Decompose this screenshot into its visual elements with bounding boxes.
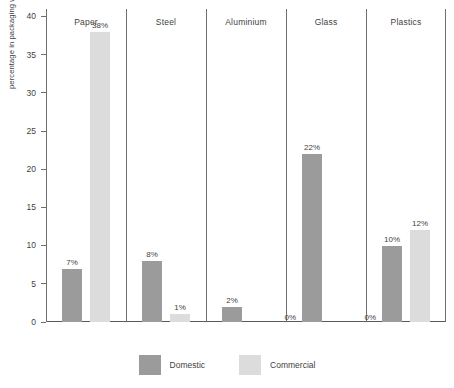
legend-label-domestic: Domestic — [170, 360, 205, 370]
legend-swatch-commercial — [239, 355, 261, 375]
bar-plastics-commercial: 12% — [410, 230, 430, 322]
bar-aluminium-domestic: 2% — [222, 307, 242, 322]
y-tick-label-25: 25 — [27, 126, 36, 135]
bar-label-glass-domestic: 22% — [304, 144, 320, 152]
bar-paper-commercial: 38% — [90, 32, 110, 322]
bar-steel-domestic: 8% — [142, 261, 162, 322]
y-axis-label-wrapper: percentage in packaging waste stream — [8, 9, 22, 322]
legend-swatch-domestic — [139, 355, 161, 375]
bar-label-paper-domestic: 7% — [66, 259, 78, 267]
panel-divider-1 — [126, 9, 127, 322]
y-tick-label-30: 30 — [27, 88, 36, 97]
legend-label-commercial: Commercial — [270, 360, 315, 370]
bar-label-steel-commercial: 1% — [174, 304, 186, 312]
y-tick-label-15: 15 — [27, 203, 36, 212]
bar-steel-commercial: 1% — [170, 314, 190, 322]
bar-label-plastics-commercial: 12% — [412, 220, 428, 228]
bar-glass-domestic: 22% — [302, 154, 322, 322]
y-tick-label-0: 0 — [31, 317, 36, 326]
panel-divider-5 — [445, 9, 446, 322]
bar-label-steel-domestic: 8% — [146, 251, 158, 259]
panel-divider-2 — [206, 9, 207, 322]
bar-label-glass-commercial: 0% — [364, 314, 376, 322]
bar-label-aluminium-domestic: 2% — [226, 297, 238, 305]
panel-divider-3 — [286, 9, 287, 322]
y-axis: percentage in packaging waste stream 403… — [0, 9, 46, 322]
legend-item-domestic[interactable]: Domestic — [139, 355, 205, 375]
y-tick-label-20: 20 — [27, 165, 36, 174]
panel-divider-4 — [366, 9, 367, 322]
bar-label-plastics-domestic: 10% — [384, 236, 400, 244]
chart-legend: DomesticCommercial — [0, 352, 454, 378]
bar-label-paper-commercial: 38% — [92, 22, 108, 30]
legend-item-commercial[interactable]: Commercial — [239, 355, 315, 375]
y-axis-label: percentage in packaging waste stream — [7, 0, 16, 89]
y-tick-label-5: 5 — [31, 279, 36, 288]
y-tick-label-40: 40 — [27, 12, 36, 21]
bar-chart: PaperSteelAluminiumGlassPlastics percent… — [0, 0, 454, 388]
panel-divider-0 — [46, 9, 47, 322]
bar-label-aluminium-commercial: 0% — [284, 314, 296, 322]
plot-area: 7%38%8%1%2%0%22%0%10%12% — [46, 9, 446, 322]
y-tick-label-10: 10 — [27, 241, 36, 250]
y-tick-label-35: 35 — [27, 50, 36, 59]
bar-paper-domestic: 7% — [62, 269, 82, 322]
bar-plastics-domestic: 10% — [382, 246, 402, 322]
